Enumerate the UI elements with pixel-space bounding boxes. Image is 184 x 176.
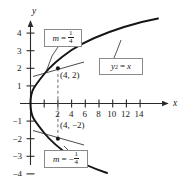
x-tick-label-12: 12 [121, 110, 130, 119]
point-label-4-2: (4, 2) [60, 71, 80, 80]
curve-equation-callout: y2 = x [99, 58, 143, 75]
slope-callout-bottom-fraction: 1 4 [74, 151, 80, 167]
x-tick-label-2: 2 [55, 110, 60, 119]
x-tick-label-10: 10 [107, 110, 116, 119]
leader-line-curve-equation [114, 40, 121, 58]
plot-canvas [0, 0, 184, 176]
x-tick-label-14: 14 [135, 110, 144, 119]
y-tick-label-3: 3 [17, 47, 22, 56]
x-tick-label-6: 6 [83, 110, 88, 119]
parabola-figure: y x 2 4 6 8 10 12 14 4 3 2 1 −1 −2 −3 −4… [0, 0, 184, 176]
slope-callout-top-numerator: 1 [68, 30, 74, 37]
y-tick-label-neg3: −3 [13, 152, 23, 161]
slope-callout-top-variable: m [52, 34, 59, 43]
y-tick-label-neg1: −1 [13, 117, 23, 126]
slope-callout-top-fraction: 1 4 [68, 30, 74, 46]
slope-callout-bottom-numerator: 1 [74, 151, 80, 158]
slope-callout-top: m = 1 4 [44, 29, 82, 47]
slope-callout-bottom-variable: m [53, 155, 60, 164]
curve-equation-equals: = [120, 62, 125, 71]
slope-callout-top-equals: = [61, 34, 66, 43]
point-label-4-neg2: (4, −2) [60, 121, 85, 130]
y-axis-label: y [32, 7, 36, 17]
x-tick-label-4: 4 [69, 110, 74, 119]
slope-callout-bottom: m = − 1 4 [44, 150, 88, 168]
slope-callout-bottom-denominator: 4 [74, 158, 80, 166]
y-tick-label-neg2: −2 [13, 135, 23, 144]
slope-callout-top-denominator: 4 [68, 37, 74, 45]
y-tick-label-neg4: −4 [13, 170, 23, 176]
y-tick-label-4: 4 [17, 29, 22, 38]
point-marker-4-neg2 [56, 137, 60, 141]
slope-callout-bottom-equals: = [61, 155, 66, 164]
y-tick-label-2: 2 [17, 64, 22, 73]
x-axis-label: x [173, 99, 177, 109]
x-tick-label-8: 8 [96, 110, 101, 119]
curve-equation-x: x [127, 62, 131, 71]
y-tick-label-1: 1 [17, 82, 22, 91]
curve-equation-exponent: 2 [115, 64, 118, 70]
